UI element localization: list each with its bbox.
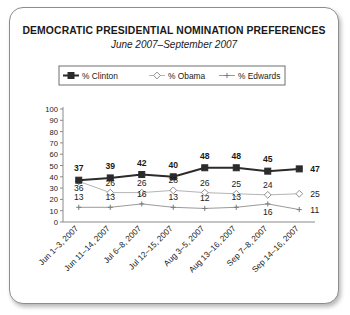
chart-card: DEMOCRATIC PRESIDENTIAL NOMINATION PREFE… [9, 7, 339, 304]
data-point-2-3 [171, 205, 176, 210]
data-label-0-4: 48 [200, 151, 210, 161]
data-label-1-3: 28 [168, 175, 178, 185]
data-point-0-6 [265, 168, 271, 174]
data-label-2-0: 13 [74, 192, 84, 202]
data-label-2-1: 13 [105, 192, 115, 202]
legend-label-2: % Edwards [238, 71, 280, 81]
y-tick-label: 100 [45, 105, 58, 114]
data-point-1-7 [296, 190, 303, 197]
data-point-2-0 [76, 205, 81, 210]
data-label-2-2: 16 [137, 189, 147, 199]
data-point-2-7 [297, 207, 302, 212]
data-point-1-6 [264, 191, 271, 198]
line-chart-svg: % Clinton% Obama% Edwards010203040506070… [23, 65, 327, 300]
legend-marker-0 [68, 73, 74, 79]
data-point-2-1 [108, 205, 113, 210]
legend-label-1: % Obama [168, 71, 206, 81]
data-label-0-2: 42 [137, 158, 147, 168]
data-label-0-0: 37 [74, 163, 84, 173]
data-point-2-6 [265, 201, 270, 206]
data-label-1-1: 26 [105, 178, 115, 188]
data-point-2-5 [234, 205, 239, 210]
y-tick-label: 30 [50, 184, 58, 193]
chart-subtitle: June 2007–September 2007 [10, 39, 338, 50]
data-label-1-4: 26 [200, 178, 210, 188]
data-label-0-3: 40 [168, 160, 178, 170]
data-point-0-0 [76, 177, 82, 183]
y-tick-label: 40 [50, 173, 58, 182]
data-label-1-5: 25 [231, 179, 241, 189]
y-tick-label: 0 [54, 218, 58, 227]
data-label-0-7: 47 [310, 164, 320, 174]
data-label-1-7: 25 [310, 189, 320, 199]
data-label-2-7: 11 [310, 205, 319, 215]
data-label-1-6: 24 [263, 180, 273, 190]
chart-plot-area: % Clinton% Obama% Edwards010203040506070… [23, 65, 327, 300]
data-label-2-5: 13 [231, 192, 241, 202]
data-label-0-1: 39 [105, 161, 115, 171]
y-tick-label: 20 [50, 195, 58, 204]
data-point-2-2 [139, 201, 144, 206]
y-tick-label: 10 [50, 207, 58, 216]
chart-title: DEMOCRATIC PRESIDENTIAL NOMINATION PREFE… [10, 25, 338, 36]
data-label-0-5: 48 [231, 151, 241, 161]
y-tick-label: 90 [50, 116, 58, 125]
data-point-2-4 [202, 206, 207, 211]
data-label-0-6: 45 [263, 154, 273, 164]
y-tick-label: 60 [50, 150, 58, 159]
data-point-0-7 [296, 166, 302, 172]
data-label-2-3: 13 [168, 192, 178, 202]
data-label-2-4: 12 [200, 193, 210, 203]
legend-label-0: % Clinton [82, 71, 118, 81]
data-label-2-6: 16 [263, 207, 273, 217]
data-point-0-4 [202, 165, 208, 171]
data-label-1-2: 26 [137, 178, 147, 188]
y-tick-label: 50 [50, 162, 58, 171]
data-point-0-5 [233, 165, 239, 171]
y-tick-label: 70 [50, 139, 58, 148]
y-tick-label: 80 [50, 128, 58, 137]
